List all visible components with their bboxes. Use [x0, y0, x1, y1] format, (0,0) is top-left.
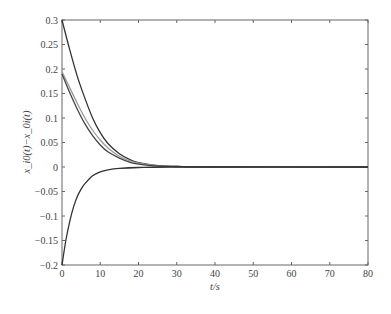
x-tick-label: 70: [325, 268, 335, 279]
series-line: [62, 20, 368, 167]
x-axis-label: t/s: [210, 281, 220, 292]
y-axis-label: x_i0(t)−x_0i(t): [21, 110, 33, 175]
y-tick-label: 0.05: [41, 137, 59, 148]
x-tick-label: 60: [287, 268, 297, 279]
y-tick-label: −0.2: [40, 260, 58, 271]
series-line: [62, 74, 368, 167]
series-line: [62, 167, 368, 265]
y-tick-label: 0: [53, 162, 58, 173]
series-line: [62, 71, 368, 167]
x-tick-label: 80: [363, 268, 373, 279]
x-tick-label: 20: [134, 268, 144, 279]
y-axis-ticks: −0.2−0.15−0.1−0.0500.050.10.150.20.250.3: [35, 15, 368, 271]
x-tick-label: 0: [60, 268, 65, 279]
y-tick-label: 0.3: [46, 15, 59, 26]
y-tick-label: 0.15: [41, 88, 59, 99]
y-tick-label: −0.1: [40, 211, 58, 222]
y-tick-label: −0.05: [35, 186, 58, 197]
x-axis-ticks: 01020304050607080: [60, 20, 374, 279]
y-tick-label: 0.2: [46, 64, 59, 75]
x-tick-label: 40: [210, 268, 220, 279]
plot-frame: [62, 20, 368, 265]
x-tick-label: 30: [172, 268, 182, 279]
plot-border: [62, 20, 368, 265]
x-tick-label: 50: [248, 268, 258, 279]
y-tick-label: 0.1: [46, 113, 59, 124]
x-tick-label: 10: [95, 268, 105, 279]
y-tick-label: −0.15: [35, 235, 58, 246]
series-lines: [62, 20, 368, 265]
line-chart: −0.2−0.15−0.1−0.0500.050.10.150.20.250.3…: [0, 0, 391, 314]
y-tick-label: 0.25: [41, 39, 59, 50]
